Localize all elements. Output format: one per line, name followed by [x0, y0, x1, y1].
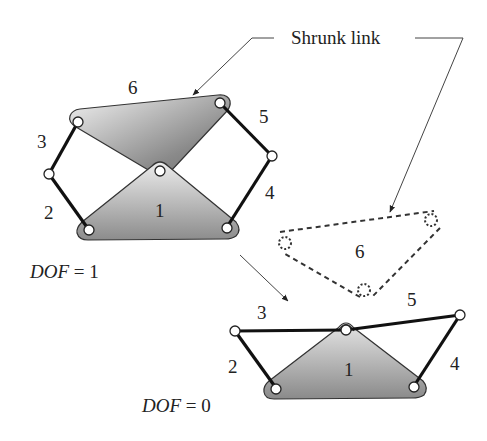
dof-bottom: DOF = 0	[141, 395, 211, 416]
joint-icon	[84, 225, 94, 235]
link-4-bar-bottom	[414, 315, 460, 386]
callout-leader-left	[193, 38, 274, 95]
callout-leader-right	[390, 38, 463, 212]
label-link-3-bottom: 3	[257, 302, 267, 323]
label-link-4-bottom: 4	[450, 353, 460, 374]
link-2-bar-bottom	[235, 331, 276, 388]
joint-icon	[455, 310, 465, 320]
joint-icon	[73, 117, 83, 127]
joint-icon	[409, 382, 419, 392]
joint-icon	[222, 223, 232, 233]
link-2-bar	[49, 174, 89, 230]
dof-value: = 0	[181, 395, 211, 416]
top-mechanism: 6 5 3 2 4 1	[37, 77, 277, 240]
label-link-5-bottom: 5	[407, 289, 417, 310]
shrunk-link-6: 6	[279, 211, 440, 298]
joint-icon	[44, 169, 54, 179]
joint-icon	[215, 98, 225, 108]
joint-icon	[155, 166, 165, 176]
joint-icon	[267, 151, 277, 161]
label-link-2-bottom: 2	[228, 356, 238, 377]
dof-symbol: DOF	[141, 395, 181, 416]
transition-arrow	[240, 255, 288, 301]
label-link-1-bottom: 1	[344, 359, 354, 380]
shrunk-joint-icon	[425, 214, 437, 226]
dof-top: DOF = 1	[29, 261, 99, 282]
dof-symbol: DOF	[29, 261, 69, 282]
joint-icon	[271, 384, 281, 394]
label-link-3: 3	[37, 131, 47, 152]
bottom-mechanism: 3 5 2 4 1	[228, 289, 465, 399]
label-link-4: 4	[265, 182, 275, 203]
link-3-bar	[49, 122, 78, 174]
joint-icon	[341, 325, 351, 335]
label-link-6: 6	[128, 77, 138, 98]
shrunk-joint-icon	[358, 284, 370, 296]
callout-text: Shrunk link	[291, 27, 381, 48]
label-link-1: 1	[155, 200, 165, 221]
dof-value: = 1	[69, 261, 99, 282]
joint-icon	[230, 326, 240, 336]
link-3-bar-bottom	[235, 330, 346, 331]
shrunk-link-label: 6	[355, 241, 365, 262]
link-5-bar-bottom	[346, 315, 460, 330]
mechanism-diagram: 6 5 3 2 4 1 DOF = 1 Shrunk link 6 3 5	[0, 0, 487, 441]
label-link-5: 5	[259, 106, 269, 127]
link-6-plate	[70, 95, 231, 175]
shrunk-link-callout: Shrunk link	[193, 27, 463, 212]
label-link-2: 2	[44, 202, 54, 223]
shrunk-joint-icon	[279, 237, 291, 249]
